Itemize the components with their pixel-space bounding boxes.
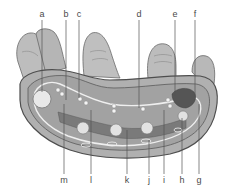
label-l: l <box>86 175 96 185</box>
label-g: g <box>194 175 204 185</box>
label-k: k <box>122 175 132 185</box>
label-d: d <box>134 9 144 19</box>
finger-4 <box>148 44 177 80</box>
label-m: m <box>59 175 69 185</box>
bone-metacarpal-4 <box>178 111 188 121</box>
hand-illustration <box>0 0 230 190</box>
label-b: b <box>61 9 71 19</box>
bone-metacarpal-3 <box>141 122 153 134</box>
label-a: a <box>37 9 47 19</box>
bone-metacarpal-2 <box>110 124 122 136</box>
hand-cross-section-diagram: a b c d e f m l k j i h g <box>0 0 230 190</box>
label-c: c <box>74 9 84 19</box>
label-h: h <box>177 175 187 185</box>
bone-metacarpal-1 <box>77 122 89 134</box>
label-f: f <box>190 9 200 19</box>
bone-left <box>33 90 51 108</box>
label-j: j <box>144 175 154 185</box>
label-i: i <box>159 175 169 185</box>
finger-3 <box>83 33 120 78</box>
label-e: e <box>170 9 180 19</box>
